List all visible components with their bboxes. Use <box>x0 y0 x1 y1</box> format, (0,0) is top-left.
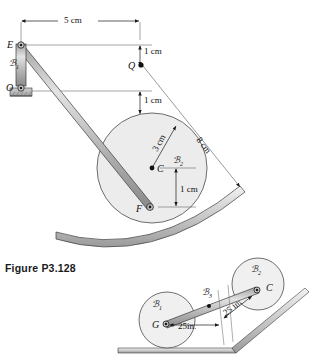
figure-caption: Figure P3.128 <box>5 262 76 274</box>
pin-center-g <box>165 323 168 326</box>
dimension-1cm-top-label: 1 cm <box>144 46 162 56</box>
upper-extension-lines <box>21 22 152 91</box>
label-point-f: F <box>135 203 143 214</box>
point-q-dot <box>138 62 143 67</box>
label-body-lower-b3: ℬ3 <box>202 287 212 299</box>
figure-drawing: 5 cm 1 cm 1 cm <box>0 0 312 362</box>
dimension-25in-horizontal-label: 25in. <box>178 321 196 331</box>
ground-horizontal <box>118 348 236 353</box>
bar-midpoint-dot <box>207 304 211 308</box>
dimension-5cm-label: 5 cm <box>64 15 82 25</box>
point-c-dot <box>150 166 155 171</box>
dimension-1cm-bottom-label: 1 cm <box>144 95 162 105</box>
label-point-e: E <box>6 39 13 50</box>
figure-p3-128: 5 cm 1 cm 1 cm <box>0 0 312 362</box>
pin-center-f <box>149 206 152 209</box>
label-point-g: G <box>152 319 159 330</box>
label-point-c-lower: C <box>266 282 273 293</box>
dimension-1cm-cf-label: 1 cm <box>180 184 198 194</box>
label-point-c: C <box>157 163 164 174</box>
svg-text:ℬ3: ℬ3 <box>202 287 212 299</box>
pin-center-c-lower <box>256 289 259 292</box>
label-point-q: Q <box>128 60 136 71</box>
label-point-o: O <box>6 82 13 93</box>
pin-center-o <box>20 87 23 90</box>
pin-center-e <box>20 44 23 47</box>
